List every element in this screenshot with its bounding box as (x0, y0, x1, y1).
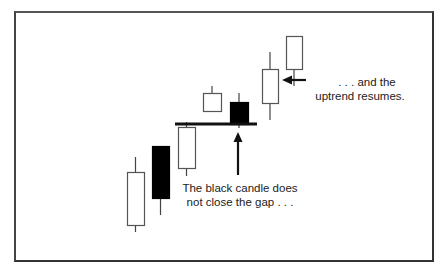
gap-annotation-line1: The black candle does (182, 181, 298, 195)
candle-body (204, 94, 222, 112)
up-arrow (234, 132, 243, 175)
gap-annotation: The black candle does not close the gap … (182, 181, 298, 209)
candle-body (179, 128, 196, 169)
trend-annotation-line1: . . . and the (312, 75, 408, 89)
candle-body (153, 147, 170, 199)
candle-4-white (204, 86, 222, 112)
candlestick-chart (0, 0, 445, 275)
candle-1-white (128, 157, 145, 232)
candle-body (128, 173, 145, 226)
candle-body (231, 103, 249, 125)
gap-annotation-line2: not close the gap . . . (182, 195, 298, 209)
trend-annotation-line2: uptrend resumes. (312, 89, 408, 103)
candle-2-black (153, 146, 170, 215)
candle-body (263, 70, 279, 104)
candle-6-white (263, 52, 279, 120)
candle-body (287, 37, 303, 70)
trend-annotation: . . . and the uptrend resumes. (312, 75, 408, 103)
candle-3-white (179, 122, 196, 176)
